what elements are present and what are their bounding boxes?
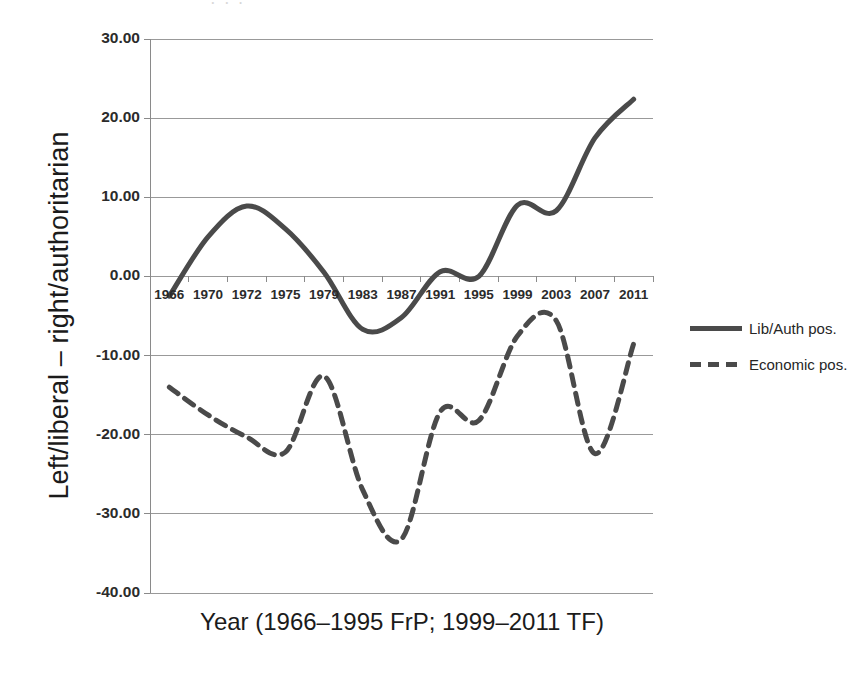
x-tick-label: 2011 (611, 287, 657, 302)
legend-label-lib-auth: Lib/Auth pos. (749, 320, 837, 337)
data-series-layer (169, 99, 633, 542)
x-axis-ticks (150, 276, 653, 282)
chart-figure: · · · Left/liberal – right/authoritarian… (0, 0, 864, 676)
series-line-economic (169, 312, 633, 542)
legend-label-economic: Economic pos. (749, 356, 847, 373)
legend-swatch-dashed-icon (690, 357, 742, 371)
chart-legend: Lib/Auth pos. Economic pos. (690, 310, 860, 382)
x-axis-tick-label-row: 1966197019721975197919831987199119951999… (0, 287, 864, 307)
axis-lines (144, 39, 150, 593)
legend-swatch-solid-icon (690, 321, 742, 335)
legend-item-lib-auth: Lib/Auth pos. (690, 310, 860, 346)
x-axis-title: Year (1966–1995 FrP; 1999–2011 TF) (150, 608, 654, 636)
legend-item-economic: Economic pos. (690, 346, 860, 382)
